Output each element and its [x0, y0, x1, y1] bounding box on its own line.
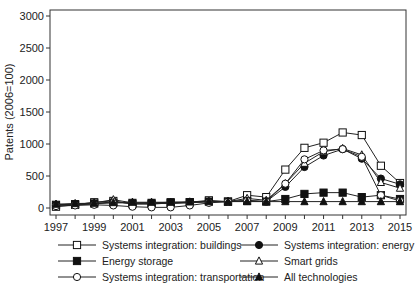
square-open-marker-icon — [73, 241, 80, 248]
line-chart: 050010001500200025003000 199719992001200… — [0, 0, 418, 236]
legend-item: Systems integration: transportation — [58, 269, 264, 285]
square-open-marker-icon — [301, 144, 308, 151]
x-tick-label: 2011 — [312, 221, 336, 233]
y-axis-label: Patents (2006=100) — [3, 64, 15, 161]
square-open-marker-icon — [377, 162, 384, 169]
legend-key-icon — [240, 239, 278, 251]
x-tick-label: 1997 — [44, 221, 68, 233]
circle-open-marker-icon — [301, 156, 308, 163]
circle-filled-marker-icon — [255, 241, 262, 248]
circle-open-marker-icon — [358, 153, 365, 160]
x-tick-label: 2007 — [235, 221, 259, 233]
legend-item: All technologies — [240, 269, 358, 285]
x-tick-label: 2009 — [273, 221, 297, 233]
y-tick-label: 2500 — [20, 42, 44, 54]
circle-open-marker-icon — [320, 147, 327, 154]
y-axis: 050010001500200025003000 — [20, 10, 50, 214]
x-tick-label: 2003 — [158, 221, 182, 233]
y-tick-label: 1000 — [20, 138, 44, 150]
x-tick-label: 2005 — [197, 221, 221, 233]
legend-key-icon — [240, 255, 278, 267]
legend-key-icon — [58, 239, 96, 251]
legend-item: Energy storage — [58, 253, 173, 269]
legend: Systems integration: buildingsSystems in… — [0, 236, 418, 288]
y-tick-label: 0 — [38, 202, 44, 214]
legend-item: Systems integration: energy — [240, 237, 414, 253]
legend-label: All technologies — [284, 271, 358, 283]
y-tick-label: 2000 — [20, 74, 44, 86]
x-axis: 1997199920012003200520072009201120132015 — [44, 215, 412, 233]
y-tick-label: 500 — [26, 170, 44, 182]
x-tick-label: 1999 — [82, 221, 106, 233]
circle-open-marker-icon — [282, 180, 289, 187]
circle-open-marker-icon — [339, 146, 346, 153]
legend-key-icon — [240, 271, 278, 283]
legend-label: Energy storage — [102, 255, 173, 267]
legend-key-icon — [58, 255, 96, 267]
legend-key-icon — [58, 271, 96, 283]
y-tick-label: 3000 — [20, 10, 44, 22]
square-filled-marker-icon — [73, 257, 80, 264]
square-open-marker-icon — [339, 129, 346, 136]
plot-area — [50, 10, 406, 215]
legend-label: Systems integration: energy — [284, 239, 414, 251]
x-tick-label: 2001 — [120, 221, 144, 233]
square-filled-marker-icon — [320, 189, 327, 196]
square-open-marker-icon — [282, 166, 289, 173]
square-open-marker-icon — [320, 139, 327, 146]
square-filled-marker-icon — [339, 189, 346, 196]
x-tick-label: 2013 — [350, 221, 374, 233]
square-open-marker-icon — [358, 131, 365, 138]
y-tick-label: 1500 — [20, 106, 44, 118]
legend-label: Smart grids — [284, 255, 338, 267]
x-tick-label: 2015 — [388, 221, 412, 233]
legend-label: Systems integration: buildings — [102, 239, 242, 251]
legend-item: Smart grids — [240, 253, 338, 269]
circle-open-marker-icon — [73, 273, 80, 280]
legend-item: Systems integration: buildings — [58, 237, 242, 253]
